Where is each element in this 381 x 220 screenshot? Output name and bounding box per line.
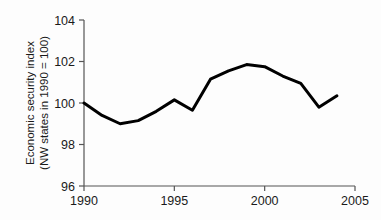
line-chart: 9698100102104 1990199520002005 Economic …	[0, 0, 381, 220]
y-tick-label: 104	[54, 14, 75, 28]
y-tick-label: 98	[61, 138, 75, 152]
y-tick-label: 100	[54, 97, 75, 111]
x-tick-label: 2005	[341, 194, 369, 208]
chart-figure: 9698100102104 1990199520002005 Economic …	[0, 0, 381, 220]
x-tick-label: 1990	[70, 194, 98, 208]
x-tick-label: 1995	[160, 194, 188, 208]
y-axis-title-line1: Economic security index	[24, 41, 36, 165]
y-tick-label: 96	[61, 180, 75, 194]
y-axis-title-line2: (NW states in 1990 = 100)	[38, 36, 50, 170]
x-tick-label: 2000	[251, 194, 279, 208]
y-tick-label: 102	[54, 55, 75, 69]
